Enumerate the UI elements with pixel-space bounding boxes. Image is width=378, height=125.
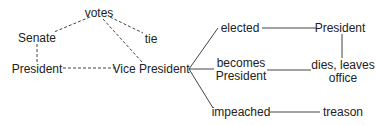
node-tie: tie [145, 33, 158, 46]
node-becomes-president: becomes President [216, 57, 267, 83]
becomes-line-2: President [216, 70, 267, 83]
node-elected: elected [221, 22, 260, 35]
node-president-left: President [12, 63, 63, 76]
node-impeached: impeached [212, 106, 271, 119]
edge-vp-elected [189, 28, 218, 69]
node-president-right: President [315, 22, 366, 35]
node-votes: votes [85, 7, 114, 20]
edge-votes-vice-president [103, 19, 142, 62]
dies-line-2: office [311, 72, 374, 85]
edge-vp-impeached [189, 69, 213, 108]
node-dies-leaves-office: dies, leaves office [311, 59, 374, 85]
node-senate: Senate [18, 32, 56, 45]
node-treason: treason [323, 106, 363, 119]
edge-votes-tie [110, 17, 143, 33]
node-vice-president: Vice President [112, 63, 189, 76]
